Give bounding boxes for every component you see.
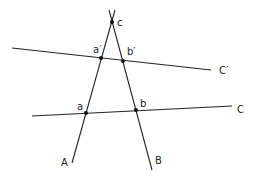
line-label-C: C xyxy=(237,104,244,115)
point-label-ap: a′ xyxy=(93,44,102,55)
point-label-a: a xyxy=(77,101,83,112)
point-label-bp: b′ xyxy=(127,46,136,57)
point-label-c: c xyxy=(117,17,123,28)
point-ap xyxy=(99,56,103,60)
line-label-Cp: C′ xyxy=(219,65,229,76)
point-c xyxy=(110,20,114,24)
line-label-B: B xyxy=(155,155,162,166)
line-C xyxy=(32,106,232,116)
line-Cp xyxy=(12,48,211,70)
point-label-b: b xyxy=(140,98,146,109)
point-a xyxy=(84,111,88,115)
point-bp xyxy=(121,59,125,63)
line-label-A: A xyxy=(61,157,68,168)
point-b xyxy=(134,108,138,112)
line-A xyxy=(72,10,115,163)
geometry-diagram: ABCC′ca′b′ab xyxy=(0,0,253,181)
line-B xyxy=(109,10,152,170)
